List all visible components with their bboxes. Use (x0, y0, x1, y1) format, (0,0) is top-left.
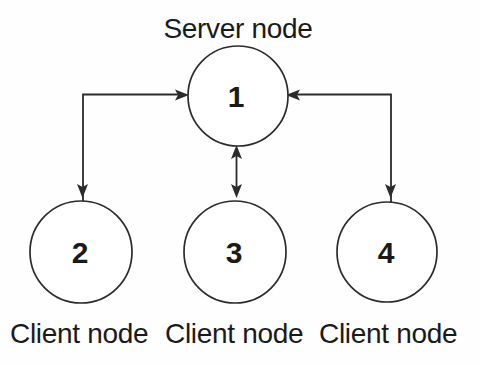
client-node-caption-center: Client node (165, 318, 303, 349)
node-client-2[interactable]: 2 (30, 201, 132, 303)
node-client-4[interactable]: 4 (337, 202, 437, 302)
node-client-4-number: 4 (378, 236, 395, 269)
edge-client2-server-line (83, 95, 182, 204)
edge-client3-server (231, 145, 242, 198)
server-node-caption: Server node (163, 13, 312, 44)
node-client-2-number: 2 (72, 236, 89, 269)
edge-client4-server-line (293, 95, 391, 204)
node-server-1[interactable]: 1 (188, 46, 288, 146)
diagram-canvas: Server node 1 (0, 0, 480, 365)
edge-client4-server (286, 90, 396, 204)
node-server-1-number: 1 (228, 80, 245, 113)
client-node-caption-left: Client node (10, 318, 148, 349)
client-node-caption-right: Client node (319, 318, 457, 349)
node-client-3-number: 3 (226, 236, 243, 269)
node-client-3[interactable]: 3 (184, 201, 286, 303)
edge-client2-server (77, 90, 189, 204)
client-server-diagram: Server node 1 (0, 0, 480, 365)
